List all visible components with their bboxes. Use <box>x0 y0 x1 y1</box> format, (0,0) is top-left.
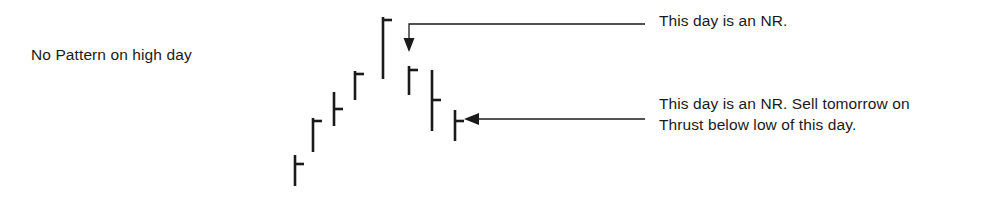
arrow-head-left-icon <box>464 113 479 125</box>
leader-nr-sell <box>464 113 645 125</box>
arrow-head-down-icon <box>404 38 415 52</box>
callout-nr-high: This day is an NR. <box>659 10 787 31</box>
callout-nr-sell: This day is an NR. Sell tomorrow on Thru… <box>659 93 910 135</box>
callout-nr-high-text: This day is an NR. <box>659 12 787 29</box>
callout-nr-sell-line2: Thrust below low of this day. <box>659 114 910 135</box>
chart-figure: No Pattern on high day This day is an NR… <box>0 0 1004 208</box>
leader-nr-high <box>404 24 646 52</box>
callout-nr-sell-line1: This day is an NR. Sell tomorrow on <box>659 95 910 112</box>
